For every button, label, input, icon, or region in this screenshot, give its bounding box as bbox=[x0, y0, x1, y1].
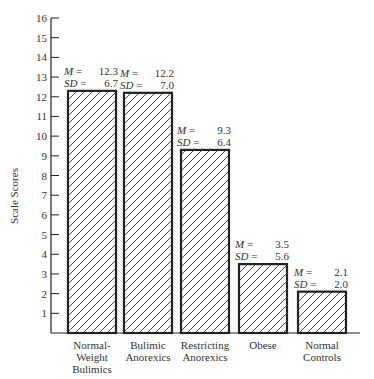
mean-value: 3.5 bbox=[275, 238, 289, 250]
bar bbox=[124, 93, 172, 333]
mean-label: M bbox=[64, 65, 73, 77]
y-tick-label: 6 bbox=[25, 209, 47, 221]
sd-label: SD bbox=[235, 250, 248, 262]
bar-stat-annotation: M =12.2SD =7.0 bbox=[120, 67, 174, 91]
bar bbox=[298, 292, 346, 333]
y-axis-label: Scale Scores bbox=[8, 168, 20, 224]
x-category-label: NormalControls bbox=[289, 339, 355, 363]
plot-area bbox=[0, 0, 374, 379]
y-tick-label: 2 bbox=[25, 288, 47, 300]
mean-value: 9.3 bbox=[217, 124, 231, 136]
bar-stat-annotation: M =3.5SD =5.6 bbox=[235, 238, 289, 262]
y-tick-label: 5 bbox=[25, 229, 47, 241]
x-category-label: RestrictingAnorexics bbox=[172, 339, 238, 363]
mean-label: M bbox=[235, 238, 244, 250]
sd-value: 6.7 bbox=[104, 77, 118, 89]
sd-label: SD bbox=[294, 278, 307, 290]
sd-value: 7.0 bbox=[160, 79, 174, 91]
sd-label: SD bbox=[120, 79, 133, 91]
bar bbox=[181, 150, 229, 333]
mean-value: 2.1 bbox=[334, 266, 348, 278]
mean-value: 12.2 bbox=[155, 67, 174, 79]
sd-label: SD bbox=[177, 136, 190, 148]
mean-label: M bbox=[177, 124, 186, 136]
x-category-label: Obese bbox=[230, 339, 296, 351]
y-tick-label: 3 bbox=[25, 268, 47, 280]
y-tick-label: 8 bbox=[25, 170, 47, 182]
mean-value: 12.3 bbox=[99, 65, 118, 77]
mean-label: M bbox=[294, 266, 303, 278]
mean-label: M bbox=[120, 67, 129, 79]
sd-value: 2.0 bbox=[334, 278, 348, 290]
bar-stat-annotation: M =9.3SD =6.4 bbox=[177, 124, 231, 148]
y-tick-label: 13 bbox=[25, 71, 47, 83]
y-tick-label: 14 bbox=[25, 51, 47, 63]
x-category-label-line: Anorexics bbox=[172, 351, 238, 363]
sd-value: 5.6 bbox=[275, 250, 289, 262]
y-tick-label: 10 bbox=[25, 130, 47, 142]
y-tick-label: 12 bbox=[25, 91, 47, 103]
y-tick-label: 11 bbox=[25, 110, 47, 122]
bar-chart: Scale Scores 12345678910111213141516M =1… bbox=[0, 0, 374, 379]
x-category-label-line: Bulimics bbox=[59, 363, 125, 375]
x-category-label-line: Controls bbox=[289, 351, 355, 363]
sd-value: 6.4 bbox=[217, 136, 231, 148]
x-category-label-line: Obese bbox=[230, 339, 296, 351]
x-category-label-line: Restricting bbox=[172, 339, 238, 351]
y-tick-label: 4 bbox=[25, 248, 47, 260]
y-tick-label: 9 bbox=[25, 150, 47, 162]
bar bbox=[68, 91, 116, 333]
y-tick-label: 7 bbox=[25, 189, 47, 201]
bar-stat-annotation: M =12.3SD =6.7 bbox=[64, 65, 118, 89]
y-tick-label: 15 bbox=[25, 32, 47, 44]
y-tick-label: 1 bbox=[25, 307, 47, 319]
x-category-label-line: Normal bbox=[289, 339, 355, 351]
bar-stat-annotation: M =2.1SD =2.0 bbox=[294, 266, 348, 290]
y-tick-label: 16 bbox=[25, 12, 47, 24]
bar bbox=[239, 264, 287, 333]
sd-label: SD bbox=[64, 77, 77, 89]
